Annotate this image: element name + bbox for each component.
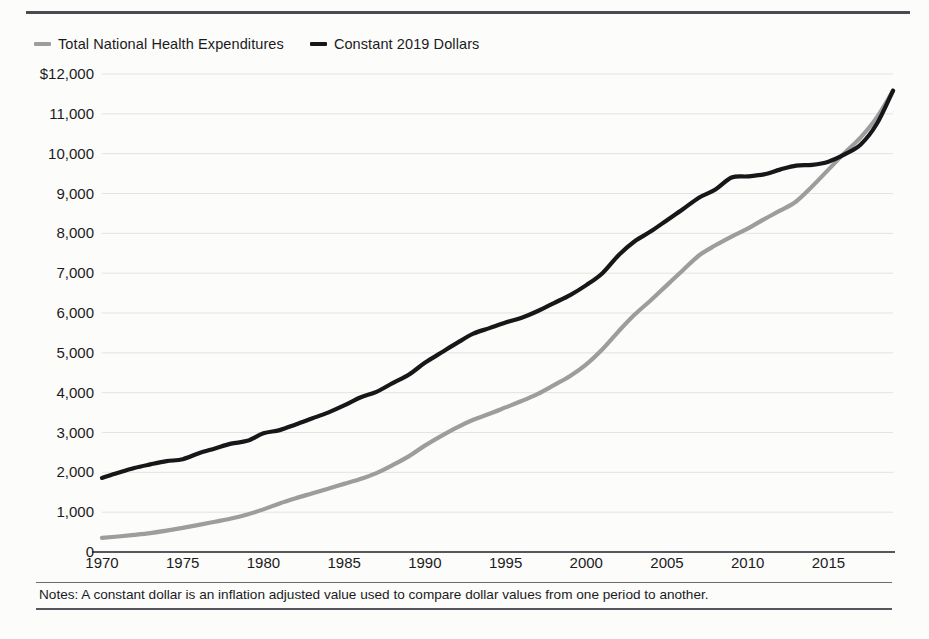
x-tick-label-1985: 1985 (327, 555, 360, 571)
note-top-rule (36, 582, 892, 583)
chart-plot-area: $12,00011,00010,0009,0008,0007,0006,0005… (0, 0, 929, 639)
x-tick-label-2015: 2015 (812, 555, 845, 571)
x-tick-label-1975: 1975 (166, 555, 199, 571)
note-bottom-rule (36, 608, 892, 610)
x-tick-label-1970: 1970 (85, 555, 118, 571)
x-tick-label-1995: 1995 (489, 555, 522, 571)
x-tick-label-2005: 2005 (650, 555, 683, 571)
x-tick-label-1980: 1980 (247, 555, 280, 571)
chart-page: Total National Health Expenditures Const… (0, 0, 929, 639)
x-tick-label-2010: 2010 (731, 555, 764, 571)
chart-note: Notes: A constant dollar is an inflation… (39, 586, 709, 604)
x-tick-label-1990: 1990 (408, 555, 441, 571)
x-tick-label-2000: 2000 (570, 555, 603, 571)
x-axis-tick-labels: 1970197519801985199019952000200520102015 (0, 0, 929, 639)
